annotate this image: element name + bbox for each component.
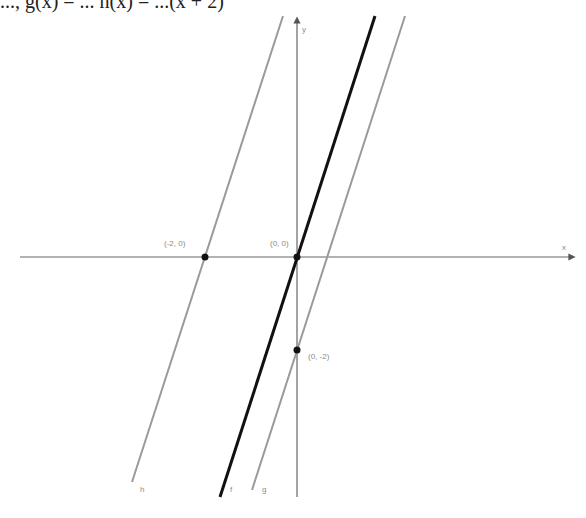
point-origin-label: (0, 0) [270, 239, 289, 248]
line-h [132, 16, 283, 482]
line-g-label: g [262, 485, 266, 494]
point-0-neg2-label: (0, -2) [308, 352, 330, 361]
line-h-label: h [140, 485, 144, 494]
point-origin [294, 254, 301, 261]
point-0-neg2 [294, 347, 301, 354]
line-g [252, 16, 405, 490]
x-axis-label: x [562, 243, 566, 252]
y-axis-label: y [302, 25, 306, 34]
coordinate-plane: x y h f g (-2, 0) (0, 0) (0, -2) [0, 0, 586, 518]
point-neg2-0 [202, 254, 209, 261]
line-f-label: f [230, 485, 233, 494]
point-neg2-0-label: (-2, 0) [164, 239, 186, 248]
